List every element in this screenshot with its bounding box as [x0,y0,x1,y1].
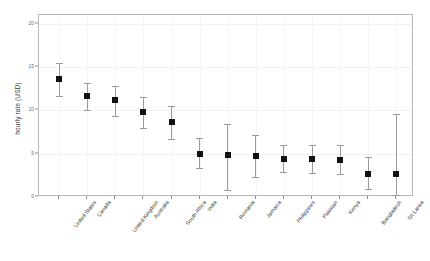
x-axis-tick-label: Philippines [296,200,316,224]
error-bar-cap-lower [196,168,203,169]
data-series [39,15,412,195]
error-bar-cap-upper [252,135,259,136]
error-bar-cap-lower [84,110,91,111]
error-bar-cap-upper [365,157,372,158]
x-axis-tick-mark [199,196,200,199]
x-axis-tick-mark [283,196,284,199]
error-bar-cap-upper [56,63,63,64]
x-axis-tick-labels: United StatesCanadaUnited KingdomAustral… [0,200,430,261]
x-axis-tick-label: Canada [97,200,113,218]
error-bar-cap-upper [112,86,119,87]
error-bar-cap-upper [196,138,203,139]
x-axis-tick-label: Sri Lanka [407,200,425,221]
x-axis-tick-label: Pakistan [322,200,339,220]
x-axis-tick-mark [171,196,172,199]
x-axis-tick-mark [142,196,143,199]
error-bar-cap-upper [393,114,400,115]
error-bar-cap-lower [365,189,372,190]
error-bar-cap-upper [140,97,147,98]
x-axis-tick-mark [367,196,368,199]
error-bar-cap-upper [168,106,175,107]
x-axis-tick-mark [339,196,340,199]
data-point-marker [253,153,259,159]
error-bar-cap-upper [337,145,344,146]
data-point-marker [140,109,146,115]
error-bar-cap-upper [280,145,287,146]
x-axis-tick-mark [58,196,59,199]
plot-area [38,14,413,196]
y-axis-tick-label: 20 [28,20,34,25]
error-bar-cap-lower [337,174,344,175]
error-bar-cap-lower [168,139,175,140]
y-axis-tick-label: 15 [28,64,34,69]
x-axis-tick-mark [86,196,87,199]
y-axis-title: hourly rate (USD) [14,39,21,179]
data-point-marker [169,119,175,125]
data-point-marker [365,171,371,177]
data-point-marker [56,76,62,82]
x-axis-tick-label: South Africa [185,200,207,226]
error-bar-cap-lower [56,96,63,97]
data-point-marker [281,156,287,162]
data-point-marker [225,152,231,158]
data-point-marker [393,171,399,177]
error-bar-cap-lower [140,128,147,129]
x-axis-tick-label: Bangladesh [381,200,403,226]
x-axis-tick-label: Kenya [348,200,362,215]
error-bar-cap-upper [224,124,231,125]
error-bar-cap-lower [280,172,287,173]
error-bar-cap-upper [84,83,91,84]
x-axis-tick-mark [255,196,256,199]
x-axis-tick-label: United States [74,200,98,229]
x-axis-tick-mark [114,196,115,199]
error-bar-cap-lower [224,190,231,191]
chart-root: 05101520 hourly rate (USD) United States… [0,0,430,261]
data-point-marker [309,156,315,162]
error-bar-cap-lower [309,173,316,174]
x-axis-tick-mark [395,196,396,199]
x-axis-tick-label: Romania [238,200,256,220]
y-axis-tick-label: 10 [28,107,34,112]
x-axis-tick-label: India [206,200,217,213]
x-axis-tick-mark [227,196,228,199]
error-bar-cap-lower [252,177,259,178]
data-point-marker [84,93,90,99]
y-axis-tick-label: 5 [31,150,34,155]
data-point-marker [197,151,203,157]
error-bar-cap-upper [309,145,316,146]
error-bar-cap-lower [112,116,119,117]
data-point-marker [112,97,118,103]
x-axis-tick-label: Jamaica [266,200,283,219]
data-point-marker [337,157,343,163]
error-bar-line [396,114,397,195]
